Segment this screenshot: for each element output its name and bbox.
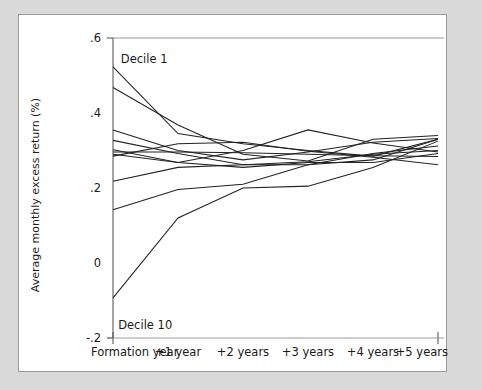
y-tick-label: -.2 (86, 331, 101, 345)
y-tick-label: .6 (90, 31, 101, 45)
decile-10-annotation: Decile 10 (118, 318, 172, 332)
x-tick-label: +3 years (282, 345, 334, 359)
x-tick-label: +1 year (155, 345, 202, 359)
y-tick-label: .4 (90, 106, 101, 120)
series-line (113, 67, 438, 156)
line-chart: Average monthly excess return (%) .6.4.2… (19, 15, 448, 373)
x-tick-label: +4 years (347, 345, 399, 359)
decile-1-annotation: Decile 1 (121, 52, 168, 66)
chart-annotations: Decile 1Decile 10 (118, 52, 172, 332)
y-axis-title: Average monthly excess return (%) (29, 98, 42, 292)
y-tick-label: 0 (94, 256, 101, 270)
series-lines (113, 67, 438, 298)
y-tick-label: .2 (90, 181, 101, 195)
y-axis-tick-marks (107, 38, 113, 338)
x-axis-tick-labels: Formation year+1 year+2 years+3 years+4 … (91, 345, 448, 359)
y-axis-tick-labels: .6.4.20-.2 (86, 31, 101, 345)
figure-panel: Average monthly excess return (%) .6.4.2… (18, 14, 447, 372)
x-tick-label: +5 years (396, 345, 448, 359)
x-tick-label: +2 years (217, 345, 269, 359)
